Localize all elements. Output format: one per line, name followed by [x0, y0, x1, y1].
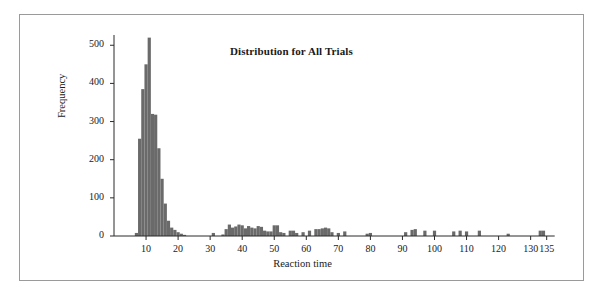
histogram-bar — [410, 230, 413, 236]
histogram-bar — [542, 231, 545, 236]
histogram-bar — [225, 229, 228, 236]
y-tick-label: 100 — [74, 191, 104, 202]
y-tick-label: 0 — [74, 229, 104, 240]
histogram-bar — [343, 231, 346, 236]
x-tick-label: 80 — [358, 243, 382, 254]
histogram-bar — [289, 231, 292, 236]
plot-axes — [110, 35, 555, 240]
x-axis-title: Reaction time — [0, 258, 605, 269]
histogram-bar — [414, 229, 417, 236]
y-tick-label: 200 — [74, 153, 104, 164]
histogram-bar — [327, 228, 330, 236]
histogram-bar — [404, 232, 407, 236]
x-tick-label: 120 — [487, 243, 511, 254]
x-tick-label: 135 — [535, 243, 559, 254]
x-tick-label: 50 — [262, 243, 286, 254]
x-tick-label: 60 — [294, 243, 318, 254]
histogram-bar — [459, 231, 462, 236]
x-tick-label: 20 — [166, 243, 190, 254]
histogram-bar — [157, 148, 160, 236]
x-tick-label: 110 — [455, 243, 479, 254]
histogram-bar — [177, 232, 180, 236]
histogram-bar — [539, 231, 542, 236]
histogram-bar — [247, 226, 250, 236]
figure-canvas: Distribution for All Trials Reaction tim… — [0, 0, 605, 295]
y-tick-label: 300 — [74, 115, 104, 126]
histogram-bar — [160, 179, 163, 236]
histogram-bar — [144, 64, 147, 236]
histogram-bar — [164, 204, 167, 236]
histogram-bar — [276, 225, 279, 236]
histogram-bar — [244, 228, 247, 236]
histogram-bar — [423, 231, 426, 236]
histogram-bar — [154, 115, 157, 236]
histogram-bar — [170, 228, 173, 236]
histogram-bar — [318, 229, 321, 236]
x-tick-label: 70 — [326, 243, 350, 254]
histogram-bar — [167, 221, 170, 236]
histogram-bar — [141, 89, 144, 236]
histogram-bar — [292, 231, 295, 236]
histogram-bar — [433, 231, 436, 236]
y-tick-label: 400 — [74, 76, 104, 87]
histogram-bar — [228, 225, 231, 236]
histogram-bar — [260, 227, 263, 236]
histogram-bar — [279, 232, 282, 236]
x-tick-label: 40 — [230, 243, 254, 254]
y-axis-title: Frequency — [56, 74, 67, 118]
histogram-bar — [330, 232, 333, 236]
histogram-bar — [250, 228, 253, 236]
x-tick-label: 90 — [390, 243, 414, 254]
chart-title: Distribution for All Trials — [230, 45, 353, 57]
histogram-bar — [148, 38, 151, 236]
histogram-bar — [269, 231, 272, 236]
histogram-bar — [452, 231, 455, 236]
histogram-bar — [273, 225, 276, 236]
histogram-bar — [314, 229, 317, 236]
x-tick-label: 30 — [198, 243, 222, 254]
histogram-bar — [231, 228, 234, 236]
histogram-bar — [173, 230, 176, 236]
x-tick-label: 10 — [134, 243, 158, 254]
histogram-bar — [237, 225, 240, 236]
histogram-bar — [321, 228, 324, 236]
y-tick-label: 500 — [74, 38, 104, 49]
histogram-bar — [253, 228, 256, 236]
histogram-bar — [241, 225, 244, 236]
histogram-bars — [135, 38, 545, 236]
histogram-bar — [138, 139, 141, 236]
histogram-bar — [478, 231, 481, 236]
histogram-bar — [234, 226, 237, 236]
histogram-bar — [151, 114, 154, 236]
histogram-bar — [266, 231, 269, 236]
histogram-bar — [257, 226, 260, 236]
histogram-bar — [324, 228, 327, 236]
x-tick-label: 100 — [423, 243, 447, 254]
histogram-bar — [465, 231, 468, 236]
histogram-bar — [263, 231, 266, 236]
histogram-bar — [301, 232, 304, 236]
histogram-bar — [308, 231, 311, 236]
